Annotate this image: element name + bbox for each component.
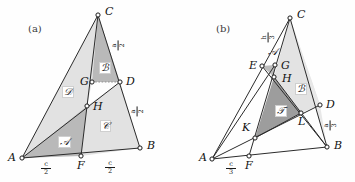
measure-h-over-3-b: h 3: [261, 32, 276, 42]
measure-numerator: c: [105, 160, 115, 167]
measure-numerator: a: [130, 106, 137, 116]
vertex-label-G-a: G: [80, 76, 89, 87]
vertex-label-L-b: L: [298, 116, 305, 127]
geometry-figure-pair: (a) A B C D F G H 𝒜 ℬ 𝒞 𝒟 c 2 c 2 a 2 a …: [0, 0, 355, 182]
measure-a-over-2-upper-a: a 2: [111, 40, 126, 50]
vertex-label-F-b: F: [245, 160, 253, 171]
measure-denominator: 2: [138, 106, 145, 116]
measure-denominator: 2: [105, 168, 115, 175]
vertex-label-H-b: H: [282, 73, 292, 84]
vertex-label-A-a: A: [8, 152, 16, 163]
vertex-label-B-b: B: [334, 140, 342, 151]
measure-numerator: c: [226, 161, 236, 168]
region-label-T-b: 𝒯: [275, 105, 287, 117]
vertex-dot-A-b: [210, 157, 214, 161]
measure-denominator: 2: [41, 169, 51, 176]
measure-denominator: 3: [226, 169, 236, 176]
measure-numerator: a: [323, 120, 330, 130]
vertex-dot-G-b: [273, 63, 277, 67]
measure-denominator: 2: [119, 40, 126, 50]
vertex-dot-B-b: [325, 145, 329, 149]
region-label-A-a: 𝒜: [58, 136, 71, 148]
measure-a-over-2-lower-a: a 2: [130, 106, 145, 116]
region-label-B-a: ℬ: [99, 62, 111, 74]
vertex-label-E-b: E: [249, 60, 257, 71]
vertex-label-A-b: A: [199, 152, 207, 163]
measure-numerator: c: [41, 161, 51, 168]
panel-caption-a: (a): [28, 24, 42, 34]
panel-caption-b: (b): [216, 24, 230, 34]
region-label-C-a: 𝒞: [100, 120, 111, 132]
vertex-dot-K-b: [253, 136, 257, 140]
vertex-label-B-a: B: [147, 140, 155, 151]
measure-numerator: h: [261, 32, 268, 42]
vertex-dot-D-b: [318, 103, 322, 107]
measure-denominator: 3: [331, 120, 338, 130]
measure-c-over-3-b: c 3: [226, 161, 236, 176]
vertex-label-G-b: G: [281, 60, 290, 71]
measure-a-over-3-b: a 3: [323, 120, 338, 130]
vertex-dot-F-b: [247, 154, 251, 158]
measure-c-over-2-right-a: c 2: [105, 160, 115, 175]
vertex-dot-H-b: [272, 75, 276, 79]
measure-denominator: 3: [269, 32, 276, 42]
vertex-label-C-b: C: [297, 9, 305, 20]
vertex-dot-C-b: [288, 16, 292, 20]
measure-c-over-2-left-a: c 2: [41, 161, 51, 176]
vertex-label-D-b: D: [326, 99, 335, 110]
vertex-label-D-a: D: [126, 76, 135, 87]
vertex-label-C-a: C: [105, 6, 113, 17]
region-label-A-b: 𝒜: [268, 47, 277, 57]
vertex-dot-E-b: [260, 64, 264, 68]
region-label-B-b: ℬ: [295, 83, 307, 95]
region-label-D-a: 𝒟: [62, 86, 74, 98]
measure-numerator: a: [111, 40, 118, 50]
vertex-label-F-a: F: [77, 160, 85, 171]
vertex-label-H-a: H: [93, 101, 103, 112]
vertex-label-K-b: K: [242, 122, 250, 133]
